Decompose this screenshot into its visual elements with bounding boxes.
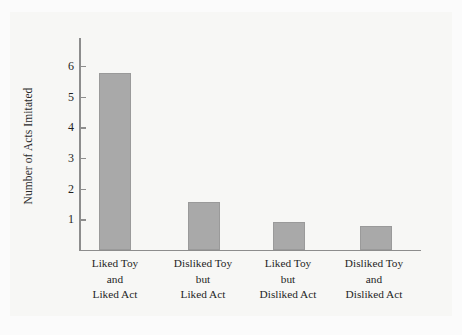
y-tick-mark (80, 66, 86, 67)
bar-chart-figure: Number of Acts Imitated 123456 Liked Toy… (0, 0, 462, 335)
y-tick-mark (80, 189, 86, 190)
y-axis-title: Number of Acts Imitated (22, 66, 34, 226)
bar (99, 73, 131, 250)
bar (273, 222, 305, 250)
plot-area: Number of Acts Imitated 123456 Liked Toy… (0, 0, 462, 335)
y-tick-label: 6 (56, 58, 74, 73)
x-label-line: and (319, 272, 429, 288)
bar (188, 202, 220, 250)
x-label-disliked-toy-and-disliked-act: Disliked Toy and Disliked Act (319, 256, 429, 303)
y-tick-label: 3 (56, 150, 74, 165)
y-tick-mark (80, 219, 86, 220)
y-tick-mark (80, 127, 86, 128)
x-label-line: Disliked Act (319, 287, 429, 303)
y-tick-label: 1 (56, 212, 74, 227)
x-label-line: Disliked Toy (319, 256, 429, 272)
y-tick-label: 4 (56, 120, 74, 135)
y-tick-mark (80, 158, 86, 159)
y-tick-label: 2 (56, 181, 74, 196)
y-tick-label: 5 (56, 89, 74, 104)
y-tick-mark (80, 97, 86, 98)
bar (360, 226, 392, 250)
